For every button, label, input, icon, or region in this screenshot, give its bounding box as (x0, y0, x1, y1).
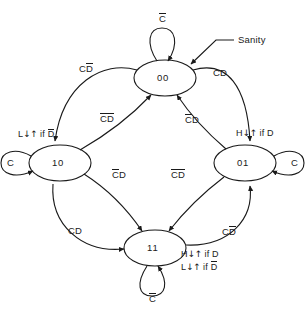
d-bar-text: D (178, 168, 185, 180)
transition-label-10-to-11-outer: CD (68, 225, 82, 236)
self-loop-label-00: C (159, 12, 166, 24)
c-text: C (79, 63, 86, 74)
d-text: D (192, 114, 199, 125)
c-text: C (291, 157, 298, 168)
cd-text: CD (213, 67, 227, 78)
self-loop-00[interactable] (150, 28, 175, 61)
state-label-00: 00 (157, 72, 169, 83)
self-loop-01[interactable] (272, 151, 304, 175)
cond-text: if D (260, 128, 274, 138)
c-bar-text: C (159, 12, 166, 24)
cond-text: if (40, 129, 48, 139)
transition-label-10-to-00: CD (100, 112, 114, 124)
sanity-label: Sanity (238, 34, 266, 45)
transition-10-to-00-inner[interactable] (80, 95, 151, 150)
cond-text: if (203, 262, 211, 272)
output-label-10: L↓↑ if D (18, 128, 54, 141)
output-label-11: H↓↑ if D L↓↑ if D (181, 249, 219, 273)
output-line-l: L↓↑ if D (181, 261, 219, 274)
state-diagram: 00 10 01 11 C C C C CD CD CD CD CD CD CD… (0, 0, 305, 319)
transition-label-01-to-00: CD (185, 113, 199, 125)
output-line-h: H↓↑ if D (181, 249, 219, 261)
c-bar-text: C (100, 112, 107, 124)
output-label-01: H↓↑ if D (236, 128, 274, 140)
diagram-canvas (0, 0, 305, 319)
transition-10-to-11-outer[interactable] (53, 184, 124, 249)
c-text: C (7, 157, 14, 168)
c-bar-text: C (149, 292, 156, 304)
d-bar-text: D (107, 112, 114, 124)
transition-01-to-11-inner[interactable] (169, 177, 224, 231)
state-label-01: 01 (237, 157, 249, 168)
transition-label-00-to-01: CD (213, 67, 227, 78)
transition-11-to-01-outer[interactable] (186, 186, 250, 245)
self-loop-label-01: C (291, 157, 298, 168)
c-text: C (222, 226, 229, 237)
c-bar-text: C (112, 168, 119, 180)
c-bar-text: C (185, 113, 192, 125)
transition-label-11-to-01-outer: CD (222, 225, 236, 237)
state-label-11: 11 (147, 242, 158, 253)
d-text: D (119, 169, 126, 180)
transition-label-01-to-11: CD (171, 168, 185, 180)
down-up-arrow-icon: ↓↑ (243, 128, 257, 138)
down-up-arrow-icon: ↓↑ (23, 129, 37, 139)
transition-10-to-11-inner[interactable] (84, 174, 142, 231)
d-bar-text: D (86, 62, 93, 74)
transition-00-to-10-outer[interactable] (55, 68, 137, 141)
sanity-arrow (191, 40, 234, 64)
signal-h-text: H (236, 128, 243, 138)
cond-text: if D (205, 249, 219, 259)
signal-h-text: H (181, 249, 188, 259)
self-loop-label-11: C (149, 292, 156, 304)
transition-label-00-to-10: CD (79, 62, 93, 74)
d-bar-text: D (229, 225, 236, 237)
c-bar-text: C (171, 168, 178, 180)
state-label-10: 10 (52, 157, 64, 168)
down-up-arrow-icon: ↓↑ (188, 249, 202, 259)
d-bar-text: D (211, 261, 218, 274)
d-bar-text: D (48, 128, 55, 141)
down-up-arrow-icon: ↓↑ (186, 262, 200, 272)
self-loop-label-10: C (7, 157, 14, 168)
self-loop-10[interactable] (1, 151, 33, 175)
cd-text: CD (68, 225, 82, 236)
transition-label-10-to-11: CD (112, 168, 126, 180)
